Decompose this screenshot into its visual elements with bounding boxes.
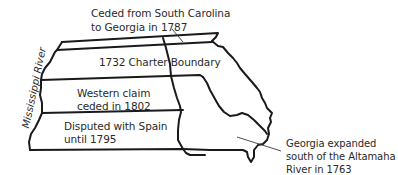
charter-boundary-label: 1732 Charter Boundary [99, 56, 221, 69]
altamaha-leader-line [237, 137, 281, 151]
altamaha-label-line2: south of the Altamaha [286, 150, 395, 163]
altamaha-label-line1: Georgia expanded [286, 137, 376, 150]
altamaha-label-line3: River in 1763 [286, 163, 352, 175]
altamaha-river-line [203, 77, 267, 134]
western-claim-label-line2: ceded in 1802 [77, 100, 151, 113]
western-claim-label-line1: Western claim [77, 87, 150, 100]
sc-cession-boundary [57, 42, 212, 50]
sc-cession-label-line1: Ceded from South Carolina [91, 7, 230, 20]
spain-dispute-label-line2: until 1795 [64, 133, 116, 146]
disputed-southern-boundary [30, 149, 205, 155]
spain-dispute-label-line1: Disputed with Spain [64, 120, 167, 133]
north-boundary-top [62, 33, 218, 42]
sc-cession-label-line2: to Georgia in 1787 [91, 21, 187, 34]
charter-southern-boundary [41, 75, 203, 80]
